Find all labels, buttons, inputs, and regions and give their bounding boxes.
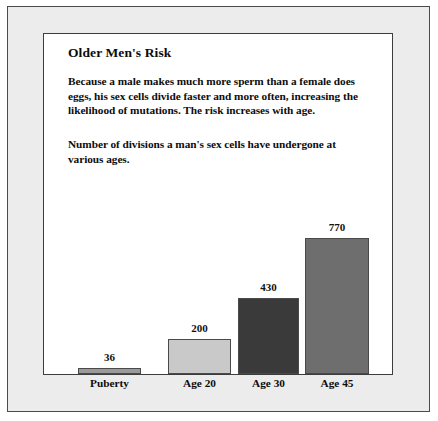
figure-paragraph-1: Because a male makes much more sperm tha… bbox=[68, 74, 368, 118]
bar-puberty bbox=[78, 368, 141, 374]
bar-value-label: 430 bbox=[260, 282, 277, 293]
bar-value-label: 200 bbox=[191, 323, 208, 334]
bar-group: 430 bbox=[238, 194, 299, 374]
category-label-age-20: Age 20 bbox=[168, 378, 231, 389]
category-label-age-30: Age 30 bbox=[238, 378, 299, 389]
category-label-puberty: Puberty bbox=[78, 378, 141, 389]
bar-age-20 bbox=[168, 339, 231, 374]
plot-area: 36200430770 bbox=[44, 194, 392, 374]
bar-value-label: 770 bbox=[329, 222, 346, 233]
figure-root: Older Men's Risk Because a male makes mu… bbox=[0, 0, 438, 421]
bar-group: 770 bbox=[305, 194, 369, 374]
bar-age-30 bbox=[238, 298, 299, 374]
figure-paragraph-2: Number of divisions a man's sex cells ha… bbox=[68, 137, 368, 166]
bar-age-45 bbox=[305, 238, 369, 374]
bar-value-label: 36 bbox=[104, 352, 115, 363]
bar-group: 200 bbox=[168, 194, 231, 374]
bar-group: 36 bbox=[78, 194, 141, 374]
figure-title: Older Men's Risk bbox=[68, 46, 368, 61]
figure-text-block: Older Men's Risk Because a male makes mu… bbox=[68, 46, 368, 166]
chart-panel: Older Men's Risk Because a male makes mu… bbox=[43, 33, 393, 375]
category-axis-labels: PubertyAge 20Age 30Age 45 bbox=[43, 378, 393, 396]
category-label-age-45: Age 45 bbox=[305, 378, 369, 389]
